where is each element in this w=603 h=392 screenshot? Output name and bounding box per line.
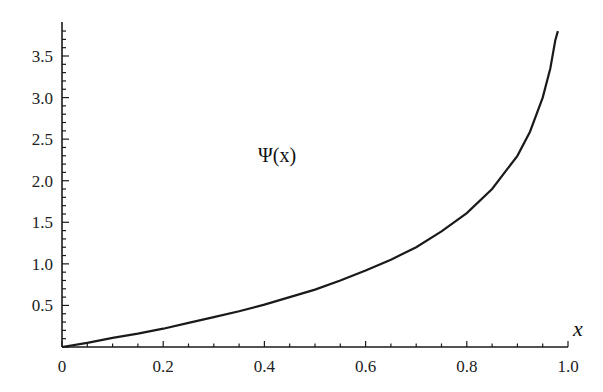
axes bbox=[62, 22, 568, 347]
x-tick-label: 0.6 bbox=[355, 357, 376, 376]
tick-labels: 00.20.40.60.81.00.51.01.52.02.53.03.5 bbox=[32, 47, 579, 376]
chart: 00.20.40.60.81.00.51.01.52.02.53.03.5 Ψ(… bbox=[0, 0, 603, 392]
x-tick-label: 0.4 bbox=[254, 357, 276, 376]
x-axis-label: x bbox=[572, 316, 583, 341]
curve-label: Ψ(x) bbox=[258, 144, 296, 167]
y-tick-label: 2.0 bbox=[32, 172, 53, 191]
y-tick-label: 2.5 bbox=[32, 130, 53, 149]
psi-curve bbox=[62, 31, 558, 347]
x-tick-label: 1.0 bbox=[557, 357, 578, 376]
y-tick-label: 0.5 bbox=[32, 296, 53, 315]
y-tick-label: 3.5 bbox=[32, 47, 53, 66]
x-tick-label: 0.2 bbox=[153, 357, 174, 376]
y-tick-label: 3.0 bbox=[32, 89, 53, 108]
x-tick-label: 0.8 bbox=[456, 357, 477, 376]
y-tick-label: 1.5 bbox=[32, 213, 53, 232]
x-tick-label: 0 bbox=[58, 357, 67, 376]
y-tick-label: 1.0 bbox=[32, 255, 53, 274]
